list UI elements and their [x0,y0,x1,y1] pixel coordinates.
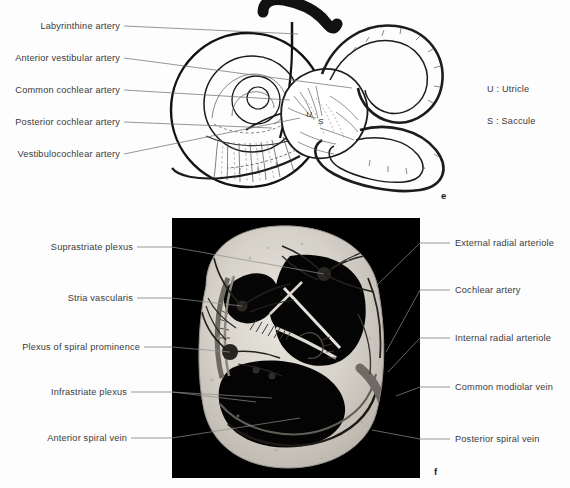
common-cochlear-artery-vessel [280,48,292,138]
panel-e-leader-lines [124,26,352,154]
label-external-radial-arteriole: External radial arteriole [455,238,554,248]
cochlear-base-margin [206,136,292,146]
cochlear-nerve-fibres [214,137,294,182]
label-infrastriate-plexus: Infrastriate plexus [0,387,127,397]
posterior-canal-tail [172,156,300,179]
marker-utricle: U [306,110,312,120]
vestibulocochlear-artery-vessel [288,104,322,116]
label-anterior-vestibular-artery: Anterior vestibular artery [0,53,120,63]
label-vestibulocochlear-artery: Vestibulocochlear artery [0,149,120,159]
posterior-canal-tail-inner [228,150,296,168]
panel-f-right-leaders [420,243,450,439]
label-posterior-cochlear-artery: Posterior cochlear artery [0,117,120,127]
superior-semicircular-canal-inner [330,41,427,114]
cochlea-helicotrema [247,87,269,109]
superior-semicircular-canal [322,25,443,122]
vestibule-body [281,69,367,158]
label-plexus-of-spiral-prominence: Plexus of spiral prominence [0,342,140,352]
cochlea-spiral-detail-2 [232,92,274,116]
label-posterior-spiral-vein: Posterior spiral vein [455,434,540,444]
label-common-modiolar-vein: Common modiolar vein [455,382,553,392]
figure-label-f: f [434,466,437,477]
posterior-cochlear-artery-vessel [246,112,286,130]
label-labyrinthine-artery: Labyrinthine artery [0,21,120,31]
label-internal-radial-arteriole: Internal radial arteriole [455,333,551,343]
canal-hatch-marks [239,28,440,174]
lateral-semicircular-canal [315,127,443,191]
cochlea-apical-turn [232,76,280,124]
label-stria-vascularis: Stria vascularis [0,293,133,303]
label-anterior-spiral-vein: Anterior spiral vein [0,433,127,443]
cochlea-outer-wall [171,33,325,187]
cochlear-nerve-fibres-dashed [221,141,274,182]
label-common-cochlear-artery: Common cochlear artery [0,85,120,95]
lateral-semicircular-canal-inner [329,138,423,183]
cochlea-photomicrograph-panel [172,218,420,478]
cochlea-middle-turn [204,56,300,152]
figure-canvas: Labyrinthine artery Anterior vestibular … [0,0,570,488]
legend-utricle: U : Utricle [487,84,529,94]
cochlea-spiral-detail-3 [214,112,296,133]
marker-saccule: S [318,117,324,127]
label-suprastriate-plexus: Suprastriate plexus [0,242,133,252]
legend-saccule: S : Saccule [487,116,536,126]
cochlea-spiral-detail-1 [212,74,287,124]
figure-label-e: e [441,190,446,201]
labyrinthine-artery-vessel [263,0,337,28]
cochlea-section-image [172,218,420,478]
label-cochlear-artery: Cochlear artery [455,285,521,295]
